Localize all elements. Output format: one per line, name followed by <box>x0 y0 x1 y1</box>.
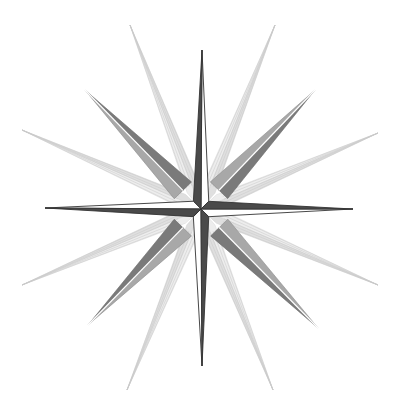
compass-rose-figure <box>0 0 403 413</box>
cardinal-north-dark <box>193 50 202 209</box>
cardinal-east-light <box>201 209 353 217</box>
compass-rose-icon <box>0 0 403 413</box>
cardinal-south-dark <box>201 209 209 366</box>
cardinal-east-dark <box>201 201 353 209</box>
cardinal-west-dark <box>45 208 201 217</box>
